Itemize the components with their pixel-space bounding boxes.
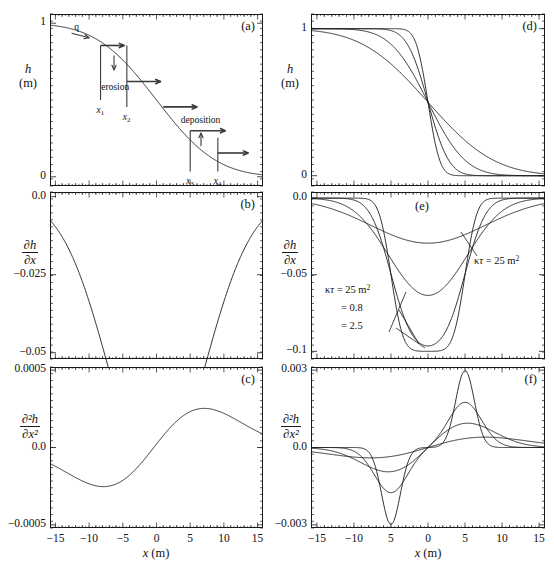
panel-f-label: (f) — [525, 372, 538, 387]
position-label-x4: x4 — [214, 176, 222, 187]
figure-root: (a) qerosiondepositionx1x2x3x4 h (m) (b)… — [0, 0, 554, 572]
panel-f-xtick-label: 0 — [408, 532, 448, 544]
erosion-label: erosion — [101, 82, 129, 92]
panel-c: (c) — [50, 367, 263, 528]
panel-e-series-label-1: κτ = 25 m2 — [325, 283, 370, 295]
panel-e-ytick-label: −0.05 — [253, 267, 307, 279]
panel-f-xtick-label: −15 — [297, 532, 337, 544]
panel-c-label: (c) — [241, 372, 255, 387]
panel-c-ylabel: ∂²h ∂x² — [12, 412, 48, 442]
data-curve — [50, 408, 263, 486]
panel-b-plot — [50, 192, 263, 359]
panel-d-ylabel-unit: (m) — [281, 76, 299, 90]
panel-b-ytick-label: 0.0 — [0, 189, 46, 201]
panel-a-plot — [50, 14, 263, 186]
data-curve — [311, 31, 545, 174]
panel-f-ylabel: ∂²h ∂x² — [273, 412, 309, 442]
leader-line-kt08 — [399, 310, 419, 344]
panel-e-series-label-2-text: = 0.8 — [341, 302, 363, 313]
position-label-x1: x1 — [97, 105, 105, 116]
panel-f-ylabel-num: ∂²h — [281, 412, 301, 427]
panel-e-series-label-3: = 2.5 — [341, 320, 363, 331]
flux-arrow — [199, 133, 203, 146]
panel-e-series-label-1-text: κτ = 25 m2 — [325, 284, 370, 295]
panel-d-ytick-label: 1 — [253, 21, 307, 33]
panel-f-xtick-label: 10 — [482, 532, 522, 544]
panel-f-ytick-label: −0.003 — [253, 517, 307, 529]
flux-arrow — [163, 105, 197, 109]
panel-c-plot — [50, 367, 263, 528]
position-label-x2: x2 — [123, 112, 131, 123]
panel-a-ylabel: h (m) — [10, 62, 46, 90]
deposition-label: deposition — [181, 115, 221, 125]
panel-e-ytick-label: 0.0 — [253, 190, 307, 202]
position-label-x3: x3 — [186, 176, 194, 187]
panel-e-ylabel: ∂h ∂x — [273, 238, 307, 268]
flux-arrow — [112, 55, 116, 70]
panel-c-xaxis-title: x (m) — [106, 546, 206, 561]
panel-f-xtick-label: 15 — [519, 532, 554, 544]
panel-d-label: (d) — [522, 19, 537, 34]
panel-b-ylabel: ∂h ∂x — [13, 238, 47, 268]
panel-d-plot — [311, 14, 545, 186]
panel-c-ytick-label: 0.0005 — [0, 362, 46, 374]
panel-a-ytick-label: 0 — [0, 169, 46, 181]
panel-a-ylabel-symbol: h — [25, 62, 31, 76]
panel-d-ylabel-symbol: h — [287, 62, 293, 76]
panel-a: (a) qerosiondepositionx1x2x3x4 — [50, 14, 263, 186]
panel-b-ytick-label: −0.05 — [0, 345, 46, 357]
panel-e-ylabel-num: ∂h — [282, 238, 298, 253]
panel-e-plot — [311, 192, 545, 359]
flux-arrow — [218, 151, 248, 155]
panel-e-series-label-2: = 0.8 — [341, 302, 363, 313]
panel-f-xaxis-title: x (m) — [378, 546, 478, 561]
panel-e: (e) κτ = 25 m2 = 0.8 = 2.5 κτ = 25 m2 — [311, 192, 545, 359]
panel-d-ylabel: h (m) — [272, 62, 308, 90]
panel-b-ytick-label: −0.025 — [0, 267, 46, 279]
panel-f-xtick-label: −10 — [334, 532, 374, 544]
panel-c-xaxis-unit: (m) — [151, 546, 169, 560]
panel-f-ytick-label: 0.003 — [253, 362, 307, 374]
panel-f-xtick-label: 5 — [445, 532, 485, 544]
panel-d-ytick-label: 0 — [253, 168, 307, 180]
flux-label-q: q — [74, 22, 79, 32]
panel-c-xtick-label: 15 — [238, 532, 278, 544]
panel-b-ylabel-num: ∂h — [22, 238, 38, 253]
panel-f-xtick-label: 5 — [371, 532, 411, 544]
panel-f-xaxis-unit: (m) — [423, 546, 441, 560]
flux-arrow — [190, 129, 225, 133]
panel-c-ytick-label: 0.0 — [0, 440, 46, 452]
panel-b: (b) — [50, 192, 263, 359]
panel-a-ylabel-unit: (m) — [19, 76, 37, 90]
panel-e-series-label-4: κτ = 25 m2 — [474, 254, 519, 266]
panel-c-ytick-label: −0.0005 — [0, 517, 46, 529]
panel-c-ylabel-num: ∂²h — [20, 412, 40, 427]
panel-f-ytick-label: 0.0 — [253, 440, 307, 452]
panel-f-plot — [311, 367, 545, 528]
panel-a-ytick-label: 1 — [0, 15, 46, 27]
panel-e-ytick-label: −0.1 — [253, 343, 307, 355]
panel-e-series-label-4-text: κτ = 25 m2 — [474, 255, 519, 266]
panel-f: (f) — [311, 367, 545, 528]
panel-e-label: (e) — [415, 199, 429, 214]
panel-d: (d) — [311, 14, 545, 186]
panel-e-series-label-3-text: = 2.5 — [341, 320, 363, 331]
